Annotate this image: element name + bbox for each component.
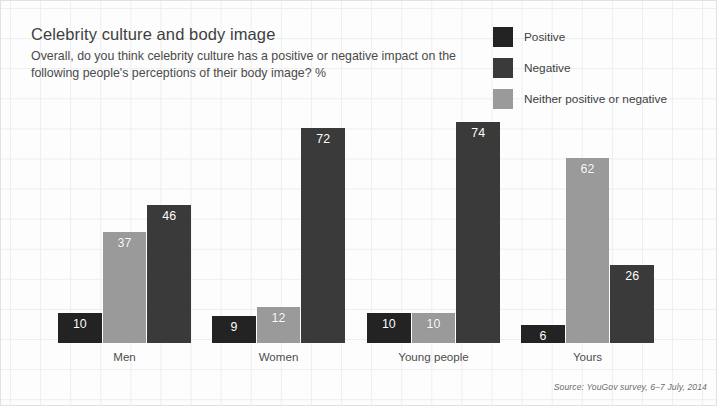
bar-group: 101074Young people — [367, 63, 500, 343]
bar[interactable]: 74 — [456, 122, 500, 343]
bar-value-label: 10 — [73, 318, 87, 330]
x-axis-category-label: Yours — [521, 350, 654, 363]
x-axis-category-label: Men — [58, 350, 191, 363]
bar-value-label: 72 — [316, 133, 330, 145]
bar-value-label: 10 — [382, 318, 396, 330]
bar[interactable]: 9 — [212, 316, 256, 343]
bar[interactable]: 10 — [412, 313, 456, 343]
bar-value-label: 26 — [625, 270, 639, 282]
bar-group-bars: 91272 — [212, 63, 345, 343]
bar[interactable]: 10 — [58, 313, 102, 343]
x-axis-category-label: Women — [212, 350, 345, 363]
x-axis-category-label: Young people — [367, 350, 500, 363]
source-note: Source: YouGov survey, 6–7 July, 2014 — [554, 382, 707, 392]
bar-value-label: 9 — [230, 321, 237, 333]
bar[interactable]: 72 — [301, 128, 345, 343]
bar-group-bars: 66226 — [521, 63, 654, 343]
bar[interactable]: 26 — [610, 265, 654, 343]
bar-value-label: 46 — [162, 210, 176, 222]
bar[interactable]: 62 — [566, 158, 610, 343]
plot-area: 103746Men91272Women101074Young people662… — [0, 0, 717, 406]
bar-value-label: 12 — [272, 312, 286, 324]
bar-value-label: 37 — [118, 237, 132, 249]
bar-group: 103746Men — [58, 63, 191, 343]
bar-value-label: 10 — [427, 318, 441, 330]
bar[interactable]: 12 — [257, 307, 301, 343]
chart-container: Celebrity culture and body image Overall… — [0, 0, 717, 406]
bar[interactable]: 10 — [367, 313, 411, 343]
bar-group-bars: 101074 — [367, 63, 500, 343]
bar-group: 91272Women — [212, 63, 345, 343]
bar[interactable]: 46 — [147, 205, 191, 343]
bar[interactable]: 6 — [521, 325, 565, 343]
bar[interactable]: 37 — [103, 232, 147, 343]
bar-value-label: 62 — [581, 163, 595, 175]
bar-group-bars: 103746 — [58, 63, 191, 343]
bar-value-label: 74 — [471, 127, 485, 139]
bar-group: 66226Yours — [521, 63, 654, 343]
bar-value-label: 6 — [539, 330, 546, 342]
